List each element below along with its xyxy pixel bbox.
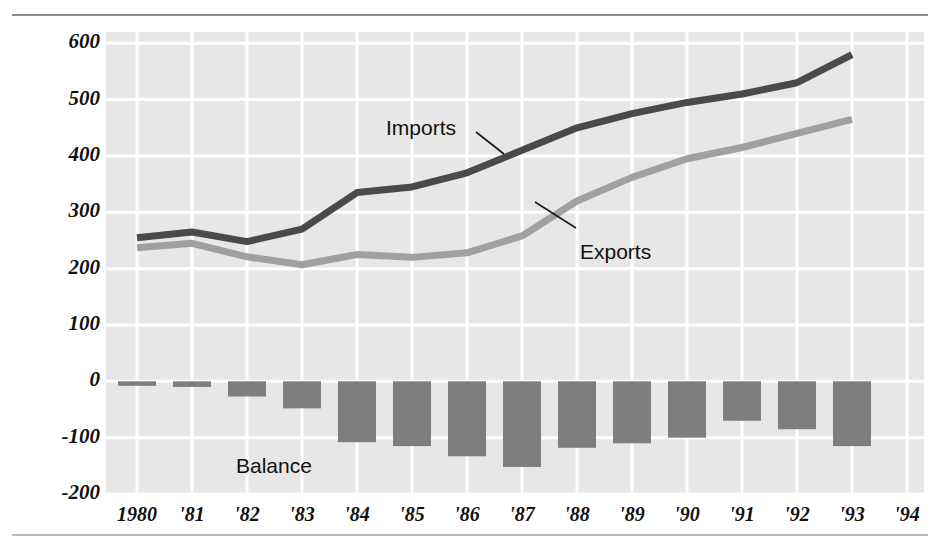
y-axis-tick-label: 0	[8, 367, 100, 392]
y-axis-tick-label: 600	[8, 29, 100, 54]
x-axis-tick-label: '82	[234, 503, 260, 526]
x-axis-tick-label: '90	[674, 503, 700, 526]
balance-bar	[118, 381, 156, 386]
chart-figure: Billions of dollars 6005004003002001000-…	[0, 0, 940, 542]
y-axis-tick-label: -100	[8, 424, 100, 449]
balance-bar	[448, 381, 486, 456]
balance-bar	[613, 381, 651, 443]
plot-area	[106, 32, 924, 494]
series-label-balance: Balance	[236, 454, 312, 478]
balance-bar	[503, 381, 541, 467]
series-label-imports: Imports	[386, 116, 456, 140]
series-label-exports: Exports	[580, 240, 651, 264]
bottom-divider-rule	[12, 534, 928, 536]
balance-bar	[723, 381, 761, 420]
x-axis-tick-label: '83	[289, 503, 315, 526]
balance-bar	[173, 381, 211, 387]
x-axis-tick-label: '85	[399, 503, 425, 526]
y-axis-tick-label: 100	[8, 311, 100, 336]
x-axis-tick-label: '93	[839, 503, 865, 526]
y-axis-tick-label: -200	[8, 480, 100, 505]
x-axis-tick-label: '87	[509, 503, 535, 526]
series-lines	[137, 55, 852, 265]
y-axis-tick-label: 500	[8, 86, 100, 111]
balance-bar	[283, 381, 321, 408]
y-axis-tick-label: 400	[8, 142, 100, 167]
x-axis-tick-label: '81	[179, 503, 205, 526]
x-axis-tick-label: '88	[564, 503, 590, 526]
x-axis-tick-label: '89	[619, 503, 645, 526]
y-axis-tick-label: 200	[8, 255, 100, 280]
balance-bars	[118, 381, 871, 467]
balance-bar	[668, 381, 706, 437]
x-axis-tick-label: '92	[784, 503, 810, 526]
balance-bar	[778, 381, 816, 429]
x-axis-tick-label: '91	[729, 503, 755, 526]
balance-bar	[228, 381, 266, 396]
x-axis-tick-label: '86	[454, 503, 480, 526]
x-axis-tick-label: 1980	[117, 503, 157, 526]
balance-bar	[393, 381, 431, 446]
top-divider-rule	[12, 14, 928, 16]
x-axis-tick-label: '94	[894, 503, 920, 526]
x-axis-tick-label: '84	[344, 503, 370, 526]
balance-bar	[833, 381, 871, 446]
balance-bar	[338, 381, 376, 442]
y-axis-tick-group: 6005004003002001000-100-200	[0, 0, 100, 542]
y-axis-tick-label: 300	[8, 198, 100, 223]
chart-canvas	[106, 32, 924, 494]
balance-bar	[558, 381, 596, 447]
leader-line-imports	[476, 132, 504, 154]
